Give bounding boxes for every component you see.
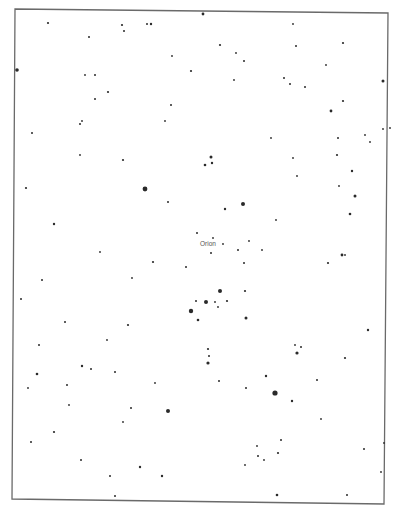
star-point	[275, 219, 277, 221]
star-point	[211, 162, 213, 164]
star-chart: Orion	[0, 0, 398, 511]
star-point	[210, 156, 213, 159]
star-point	[341, 254, 344, 257]
star-point	[351, 170, 353, 172]
star-point	[161, 475, 163, 477]
star-point	[80, 459, 82, 461]
star-point	[346, 494, 348, 496]
star-point	[257, 455, 259, 457]
star-point	[122, 421, 124, 423]
star-point	[272, 390, 277, 395]
star-point	[292, 157, 294, 159]
star-point	[127, 324, 129, 326]
star-point	[66, 384, 68, 386]
star-point	[304, 86, 306, 88]
star-point	[208, 355, 210, 357]
star-point	[204, 164, 207, 167]
star-point	[276, 494, 279, 497]
star-point	[243, 60, 245, 62]
star-point	[202, 13, 205, 16]
star-point	[263, 459, 265, 461]
star-point	[380, 471, 382, 473]
star-point	[219, 44, 221, 46]
star-point	[363, 448, 365, 450]
star-point	[146, 23, 148, 25]
star-point	[139, 466, 141, 468]
chart-frame	[12, 9, 388, 504]
star-point	[344, 357, 346, 359]
star-point	[154, 382, 156, 384]
star-point	[277, 452, 279, 454]
star-point	[88, 36, 90, 38]
star-point	[383, 442, 385, 444]
star-point	[27, 387, 29, 389]
star-point	[224, 208, 226, 210]
star-point	[94, 74, 96, 76]
star-point	[171, 55, 173, 57]
star-point	[152, 261, 154, 263]
star-point	[68, 404, 70, 406]
star-point	[364, 134, 366, 136]
star-point	[330, 110, 333, 113]
star-point	[79, 154, 81, 156]
star-point	[265, 375, 267, 377]
star-point	[31, 132, 33, 134]
star-point	[53, 223, 55, 225]
star-point	[325, 64, 327, 66]
star-point	[204, 300, 208, 304]
star-point	[107, 91, 109, 93]
star-point	[150, 23, 152, 25]
star-point	[197, 319, 200, 322]
star-point	[248, 240, 250, 242]
star-point	[289, 83, 291, 85]
star-point	[280, 439, 282, 441]
star-point	[354, 195, 357, 198]
star-point	[81, 365, 83, 367]
star-point	[109, 475, 111, 477]
star-point	[207, 348, 209, 350]
star-point	[342, 100, 344, 102]
star-point	[130, 407, 132, 409]
star-point	[382, 80, 385, 83]
star-point	[349, 213, 352, 216]
star-point	[369, 141, 371, 143]
star-point	[320, 418, 322, 420]
star-point	[196, 232, 198, 234]
star-point	[295, 45, 297, 47]
star-point	[114, 371, 116, 373]
star-point	[210, 252, 212, 254]
star-point	[300, 346, 302, 348]
star-point	[292, 23, 294, 25]
star-point	[185, 266, 187, 268]
star-point	[81, 120, 83, 122]
star-point	[195, 300, 197, 302]
star-point	[164, 120, 166, 122]
star-point	[106, 339, 108, 341]
star-point	[337, 137, 339, 139]
star-point	[218, 289, 222, 293]
star-point	[294, 344, 296, 346]
star-point	[190, 70, 192, 72]
star-point	[25, 187, 27, 189]
star-point	[84, 74, 86, 76]
star-point	[389, 127, 391, 129]
star-field	[15, 13, 391, 497]
star-point	[270, 137, 272, 139]
star-point	[283, 77, 285, 79]
star-point	[245, 317, 248, 320]
star-point	[122, 159, 124, 161]
star-point	[15, 68, 19, 72]
star-point	[237, 249, 239, 251]
star-point	[38, 344, 40, 346]
star-point	[233, 79, 235, 81]
star-point	[170, 104, 172, 106]
star-point	[327, 262, 329, 264]
star-point	[121, 24, 123, 26]
star-point	[189, 309, 193, 313]
star-point	[53, 431, 55, 433]
star-point	[114, 495, 116, 497]
star-point	[336, 154, 338, 156]
star-point	[295, 351, 298, 354]
star-point	[79, 123, 81, 125]
star-point	[41, 279, 43, 281]
